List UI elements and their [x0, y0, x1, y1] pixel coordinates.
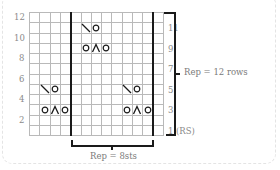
- k2tog-icon: [122, 84, 132, 94]
- grid-line-vertical: [142, 12, 143, 136]
- yarn-over-icon: [122, 105, 132, 115]
- row-number-label-right: 7: [168, 64, 173, 74]
- stitch-repeat-label: Rep = 8sts: [90, 151, 137, 161]
- row-number-label-right: 3: [168, 105, 173, 115]
- yarn-over-icon: [81, 43, 91, 53]
- k2tog-icon: [40, 84, 50, 94]
- repeat-boundary-line: [152, 12, 154, 136]
- k2tog-icon: [81, 23, 91, 33]
- stitch-repeat-bracket: [71, 145, 154, 147]
- grid-line-vertical: [101, 12, 102, 136]
- row-number-label-right: 9: [168, 44, 173, 54]
- row-number-label-left: 10: [14, 33, 25, 43]
- row-number-label-left: 4: [19, 94, 24, 104]
- row-number-label-left: 8: [19, 53, 24, 63]
- grid-line-vertical: [163, 12, 164, 136]
- yarn-over-icon: [60, 105, 70, 115]
- repeat-boundary-line: [70, 12, 72, 136]
- grid-line-vertical: [39, 12, 40, 136]
- yarn-over-icon: [50, 84, 60, 94]
- row-repeat-bracket-bottom: [166, 134, 176, 136]
- yarn-over-icon: [91, 23, 101, 33]
- grid-line-vertical: [50, 12, 51, 136]
- knitting-chart-grid: [29, 12, 163, 135]
- double-decrease-icon: [91, 43, 101, 53]
- double-decrease-icon: [50, 105, 60, 115]
- grid-line-vertical: [132, 12, 133, 136]
- row-repeat-label: Rep = 12 rows: [184, 67, 248, 77]
- yarn-over-icon: [40, 105, 50, 115]
- stitch-repeat-bracket-tick: [111, 146, 113, 150]
- double-decrease-icon: [132, 105, 142, 115]
- grid-line-vertical: [111, 12, 112, 136]
- grid-line-vertical: [122, 12, 123, 136]
- yarn-over-icon: [132, 84, 142, 94]
- row-number-label-left: 6: [19, 74, 24, 84]
- yarn-over-icon: [143, 105, 153, 115]
- row-repeat-bracket-tick: [176, 73, 180, 75]
- grid-line-vertical: [60, 12, 61, 136]
- row-number-label-left: 2: [19, 115, 24, 125]
- yarn-over-icon: [101, 43, 111, 53]
- row-number-label-left: 12: [14, 12, 25, 22]
- row-number-label-right: 5: [168, 85, 173, 95]
- row-repeat-bracket-top: [164, 12, 174, 14]
- stitch-repeat-bracket-right: [152, 140, 154, 146]
- grid-line-vertical: [29, 12, 30, 136]
